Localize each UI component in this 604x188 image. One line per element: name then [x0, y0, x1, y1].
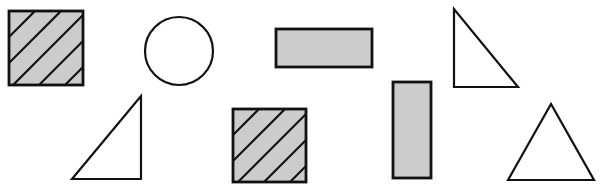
shapes-diagram [0, 0, 604, 188]
right-triangle-1-shape [454, 9, 518, 87]
circle-1-shape [145, 17, 213, 85]
equilateral-triangle-1-shape [508, 104, 594, 180]
rectangle-vertical-1-shape [393, 82, 431, 178]
rectangle-horizontal-1-shape [276, 29, 372, 67]
right-triangle-2-shape [72, 96, 141, 179]
shapes-layer [0, 4, 594, 182]
